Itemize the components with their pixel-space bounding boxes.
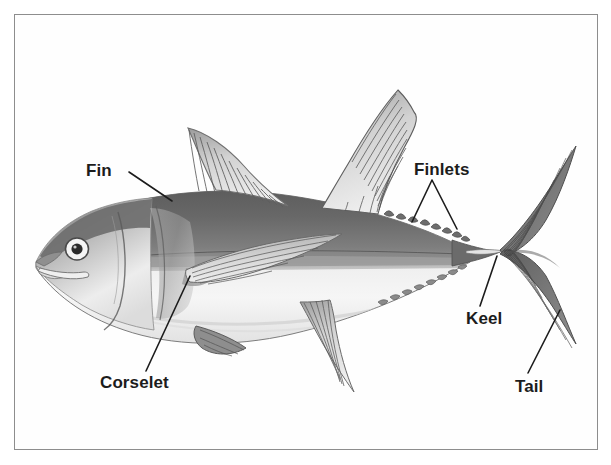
label-keel: Keel (466, 310, 502, 327)
label-corselet: Corselet (100, 374, 169, 391)
fish-head (36, 198, 154, 330)
label-finlets: Finlets (414, 161, 470, 178)
figure-canvas: Fin Corselet Finlets Keel Tail (0, 0, 611, 465)
leader-tail (528, 310, 560, 373)
leader-finlets (412, 180, 457, 229)
caudal-peduncle (452, 240, 504, 266)
leader-keel (480, 256, 497, 306)
label-fin: Fin (86, 162, 112, 179)
leader-fin (129, 172, 172, 201)
second-dorsal-fin (322, 90, 416, 214)
label-tail: Tail (515, 378, 543, 395)
caudal-fin (500, 146, 576, 348)
keel-ridge (466, 250, 504, 255)
